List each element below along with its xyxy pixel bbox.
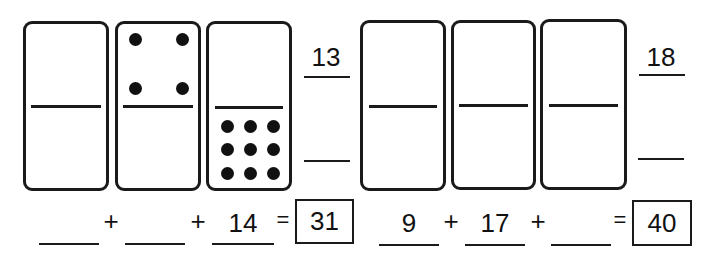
domino-divider	[459, 104, 528, 107]
equation-total-box: 31	[295, 199, 354, 244]
answer-blank-1[interactable]	[39, 243, 99, 245]
pip	[221, 167, 234, 180]
domino-right-3	[540, 19, 627, 190]
pip	[267, 143, 280, 156]
domino-right-1	[360, 20, 446, 191]
domino-divider	[123, 105, 193, 108]
domino-divider	[369, 105, 437, 108]
equation-total-box: 40	[632, 200, 692, 246]
answer-blank-2[interactable]	[125, 243, 185, 245]
equals-sign: =	[612, 209, 628, 231]
domino-divider	[549, 104, 618, 107]
plus-sign: +	[528, 208, 548, 234]
plus-sign: +	[188, 208, 208, 234]
domino-left-1	[23, 21, 109, 191]
equals-sign: =	[275, 209, 291, 231]
answer-blank-3	[212, 243, 274, 245]
side-top-answer-line[interactable]	[639, 74, 685, 76]
domino-right-2	[451, 20, 536, 190]
side-bottom-answer-line[interactable]	[304, 160, 350, 162]
plus-sign: +	[441, 208, 461, 234]
domino-divider	[31, 105, 101, 108]
side-top-answer-line[interactable]	[304, 76, 350, 78]
pip	[176, 33, 189, 46]
pip	[221, 120, 234, 133]
domino-left-2	[115, 21, 201, 191]
answer-blank-2	[465, 244, 525, 246]
domino-left-3	[206, 21, 292, 191]
pip	[267, 120, 280, 133]
pip	[244, 120, 257, 133]
pip	[244, 167, 257, 180]
pip	[244, 143, 257, 156]
equation-term-3: 14	[212, 210, 274, 236]
pip	[221, 143, 234, 156]
side-top-value: 13	[303, 44, 349, 70]
pip	[129, 33, 142, 46]
answer-blank-1	[379, 244, 439, 246]
equation-term-2: 17	[465, 210, 525, 236]
equation-term-1: 9	[379, 210, 439, 236]
answer-blank-3[interactable]	[551, 244, 611, 246]
side-bottom-answer-line[interactable]	[638, 158, 684, 160]
pip	[176, 82, 189, 95]
pip	[267, 167, 280, 180]
domino-divider	[215, 106, 283, 109]
side-top-value: 18	[638, 44, 684, 70]
pip	[129, 82, 142, 95]
plus-sign: +	[101, 208, 121, 234]
